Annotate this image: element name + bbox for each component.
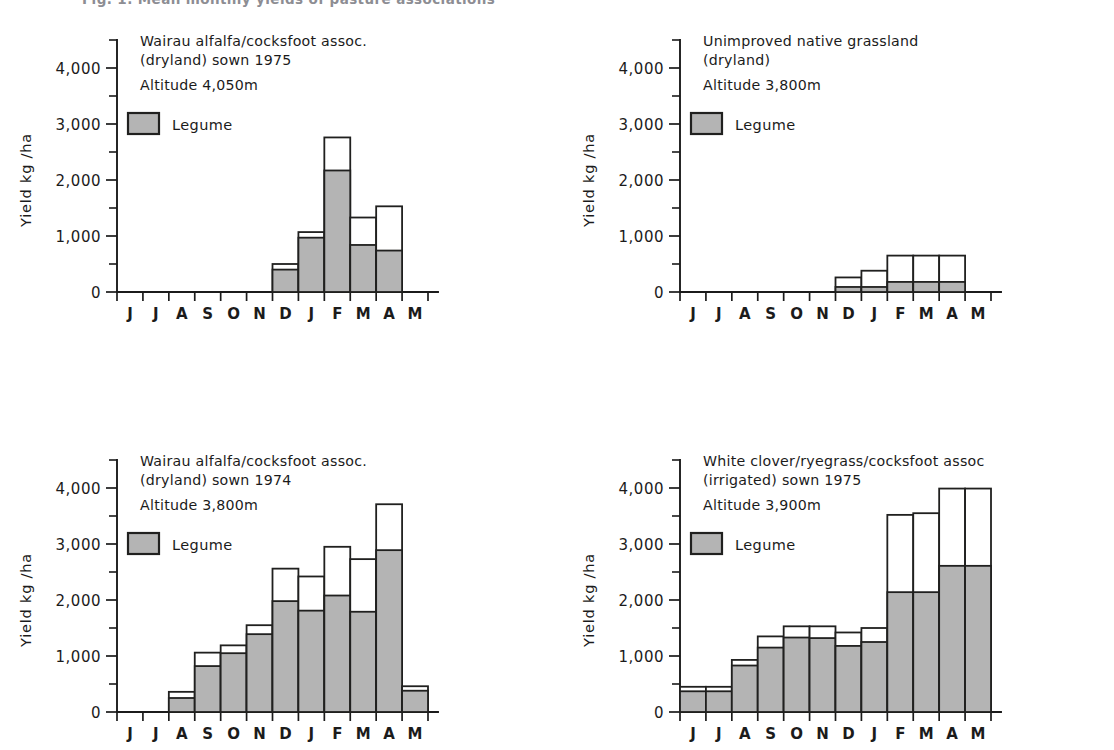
y-axis-title: Yield kg /ha (18, 553, 34, 648)
panel-title: Wairau alfalfa/cocksfoot assoc. (140, 453, 367, 469)
bar-legume (324, 596, 350, 712)
y-tick-label: 4,000 (619, 480, 664, 498)
x-tick-label: F (895, 305, 905, 323)
x-tick-label: N (816, 725, 829, 743)
legend-swatch-legume (128, 113, 159, 134)
panel-altitude: Altitude 3,800m (140, 497, 258, 513)
chart-svg: 01,0002,0003,0004,000JJASONDJFMAMYield k… (0, 430, 557, 750)
x-tick-label: M (408, 305, 423, 323)
x-tick-label: J (689, 305, 696, 323)
x-tick-label: J (871, 305, 878, 323)
y-tick-label: 1,000 (619, 648, 664, 666)
bar-legume (836, 646, 862, 712)
x-tick-label: J (152, 305, 159, 323)
x-tick-label: J (715, 305, 722, 323)
y-tick-label: 1,000 (56, 648, 101, 666)
bar-legume (324, 170, 350, 292)
y-tick-label: 1,000 (619, 228, 664, 246)
y-tick-label: 3,000 (619, 536, 664, 554)
bar-legume (247, 634, 273, 712)
bar-legume (836, 287, 862, 292)
bar-legume (887, 592, 913, 712)
bar-legume (169, 698, 195, 712)
legend-swatch-legume (128, 533, 159, 554)
chart-svg: 01,0002,0003,0004,000JJASONDJFMAMYield k… (0, 10, 557, 330)
y-tick-label: 4,000 (56, 480, 101, 498)
bar-legume (195, 666, 221, 712)
x-tick-label: F (332, 725, 342, 743)
bar-legume (273, 270, 299, 292)
chart-panel-top-right: 01,0002,0003,0004,000JJASONDJFMAMYield k… (557, 10, 1114, 330)
bar-legume (861, 642, 887, 712)
bar-legume (402, 691, 428, 712)
panel-altitude: Altitude 3,900m (703, 497, 821, 513)
bar-legume (913, 282, 939, 292)
x-tick-label: M (919, 305, 934, 323)
bar-legume (706, 691, 732, 712)
x-tick-label: N (816, 305, 829, 323)
chart-panel-top-left: 01,0002,0003,0004,000JJASONDJFMAMYield k… (0, 10, 557, 330)
x-tick-label: J (308, 725, 315, 743)
bar-legume (732, 666, 758, 712)
x-tick-label: D (842, 725, 854, 743)
x-tick-label: O (790, 305, 803, 323)
y-tick-label: 2,000 (56, 592, 101, 610)
panel-title: Unimproved native grassland (703, 33, 919, 49)
x-tick-label: O (227, 305, 240, 323)
x-tick-label: D (842, 305, 854, 323)
panel-subtitle: (irrigated) sown 1975 (703, 472, 861, 488)
chart-panel-bottom-left: 01,0002,0003,0004,000JJASONDJFMAMYield k… (0, 430, 557, 750)
panel-title: Wairau alfalfa/cocksfoot assoc. (140, 33, 367, 49)
y-tick-label: 2,000 (619, 172, 664, 190)
x-tick-label: A (383, 725, 395, 743)
x-tick-label: M (356, 725, 371, 743)
bar-legume (221, 653, 247, 712)
panel-subtitle: (dryland) sown 1975 (140, 52, 291, 68)
x-tick-label: O (227, 725, 240, 743)
x-tick-label: J (308, 305, 315, 323)
bar-legume (298, 238, 324, 292)
y-tick-label: 2,000 (619, 592, 664, 610)
x-tick-label: D (279, 305, 291, 323)
x-tick-label: S (202, 725, 213, 743)
x-tick-label: A (176, 305, 188, 323)
y-tick-label: 0 (654, 284, 664, 302)
y-tick-label: 2,000 (56, 172, 101, 190)
x-tick-label: S (202, 305, 213, 323)
x-tick-label: J (871, 725, 878, 743)
y-tick-label: 4,000 (619, 60, 664, 78)
x-tick-label: N (253, 305, 266, 323)
x-tick-label: A (739, 305, 751, 323)
bar-legume (350, 245, 376, 292)
bar-legume (350, 612, 376, 712)
x-tick-label: J (689, 725, 696, 743)
chart-svg: 01,0002,0003,0004,000JJASONDJFMAMYield k… (557, 10, 1114, 330)
x-tick-label: M (971, 305, 986, 323)
bar-legume (939, 282, 965, 292)
x-tick-label: A (946, 725, 958, 743)
legend-label-legume: Legume (735, 117, 796, 133)
x-tick-label: J (152, 725, 159, 743)
bar-legume (758, 648, 784, 712)
legend-label-legume: Legume (172, 117, 233, 133)
panel-subtitle: (dryland) sown 1974 (140, 472, 291, 488)
chart-svg: 01,0002,0003,0004,000JJASONDJFMAMYield k… (557, 430, 1114, 750)
chart-panel-bottom-right: 01,0002,0003,0004,000JJASONDJFMAMYield k… (557, 430, 1114, 750)
panel-altitude: Altitude 4,050m (140, 77, 258, 93)
bar-legume (298, 611, 324, 712)
legend-label-legume: Legume (735, 537, 796, 553)
bar-legume (680, 691, 706, 712)
x-tick-label: S (765, 305, 776, 323)
x-tick-label: J (126, 725, 133, 743)
y-axis-title: Yield kg /ha (581, 133, 597, 228)
x-tick-label: M (919, 725, 934, 743)
y-tick-label: 4,000 (56, 60, 101, 78)
legend-label-legume: Legume (172, 537, 233, 553)
y-tick-label: 0 (91, 284, 101, 302)
bar-legume (861, 287, 887, 292)
x-tick-label: D (279, 725, 291, 743)
x-tick-label: M (408, 725, 423, 743)
legend-swatch-legume (691, 533, 722, 554)
panel-subtitle: (dryland) (703, 52, 770, 68)
x-tick-label: N (253, 725, 266, 743)
